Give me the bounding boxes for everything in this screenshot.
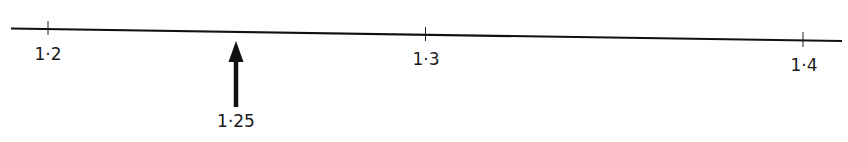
number-line-diagram xyxy=(0,0,848,142)
up-arrow-icon xyxy=(229,41,244,107)
tick-label-1-2: 1·2 xyxy=(34,46,61,63)
marker-label-1-25: 1·25 xyxy=(217,113,255,130)
number-line-axis xyxy=(11,29,842,42)
tick-label-1-3: 1·3 xyxy=(412,51,439,68)
tick-label-1-4: 1·4 xyxy=(790,57,817,74)
